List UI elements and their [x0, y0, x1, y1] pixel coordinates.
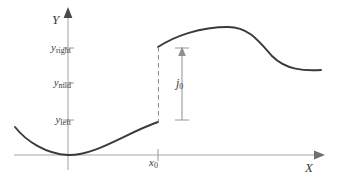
x0-subscript: 0 — [154, 161, 158, 170]
plot-canvas — [0, 0, 339, 188]
y-tick-label-y-right: yright — [51, 41, 71, 53]
y-right-subscript: right — [56, 46, 71, 55]
y-mid-subscript: mid — [59, 81, 71, 90]
y-axis-label: Y — [52, 12, 59, 28]
x-tick-label-x0: x0 — [149, 156, 158, 168]
figure-discontinuous-function-plot: Y X yright ymid yleft x0 j0 — [0, 0, 339, 188]
jump-subscript: 0 — [179, 82, 183, 91]
y-mid-base: y — [54, 76, 59, 88]
x-axis-label: X — [305, 160, 313, 176]
jump-magnitude-label: j0 — [176, 76, 183, 91]
y-left-subscript: left — [60, 118, 71, 127]
y-tick-label-y-mid: ymid — [54, 76, 71, 88]
y-axis-arrowhead — [64, 7, 73, 18]
y-tick-label-y-left: yleft — [55, 113, 71, 125]
curve-left-branch — [15, 122, 158, 155]
x-axis-arrowhead — [314, 151, 325, 160]
